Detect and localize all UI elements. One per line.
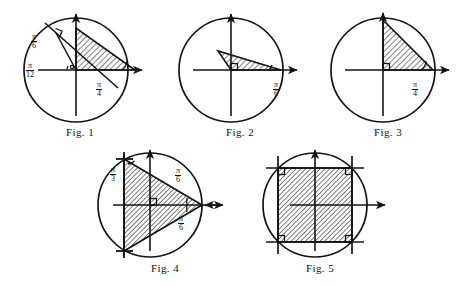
fig4-label-pi-over-3: π 3	[110, 166, 116, 183]
fig3-pi4-denominator: 4	[412, 90, 418, 98]
fig4-label-pi-over-6-upper: π 6	[175, 167, 181, 184]
fig1-pi12-denominator: 12	[26, 71, 34, 79]
fig4-label-pi-over-6-lower: π 6	[178, 215, 184, 232]
fig1-pi6-denominator: 6	[31, 42, 37, 50]
fig1-origin-angle-dot	[70, 65, 73, 68]
figure-2-caption: Fig. 2	[200, 126, 280, 138]
figure-5-caption: Fig. 5	[280, 262, 360, 274]
fig2-label-pi-over-6: π 6	[273, 81, 279, 98]
figure-4-diagram	[95, 147, 235, 262]
fig1-label-pi-over-6: π 6	[31, 33, 37, 50]
fig1-chord	[56, 33, 76, 70]
fig4-pi6l-denominator: 6	[178, 224, 184, 232]
fig1-pi4-denominator: 4	[96, 90, 102, 98]
figure-2-diagram	[173, 8, 303, 126]
figure-3-diagram	[325, 8, 455, 126]
figure-1-diagram	[18, 8, 148, 126]
figure-1-caption: Fig. 1	[40, 126, 120, 138]
fig4-pi3-denominator: 3	[110, 175, 116, 183]
figure-4-caption: Fig. 4	[125, 262, 205, 274]
figure-plate: π 6 π 12 π 4 Fig. 1 π 6 Fig. 2	[0, 0, 463, 286]
fig2-pi6-denominator: 6	[273, 90, 279, 98]
fig1-label-pi-over-4: π 4	[96, 81, 102, 98]
figure-5-diagram	[250, 147, 390, 262]
fig1-label-pi-over-12: π 12	[26, 62, 34, 79]
fig4-pi6u-denominator: 6	[175, 176, 181, 184]
fig3-label-pi-over-4: π 4	[412, 81, 418, 98]
figure-3-caption: Fig. 3	[348, 126, 428, 138]
